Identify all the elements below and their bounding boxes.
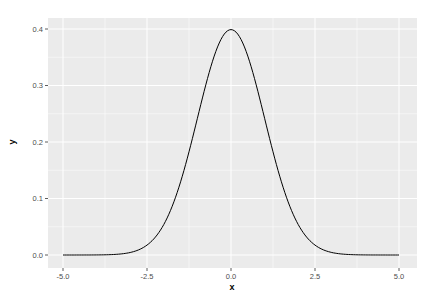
- x-tick-label: -5.0: [57, 272, 70, 281]
- density-chart: 0.00.10.20.30.4 -5.0-2.50.02.55.0 x y: [0, 0, 438, 304]
- y-axis-title: y: [7, 139, 17, 144]
- x-tick-label: -2.5: [141, 272, 154, 281]
- y-tick-label: 0.1: [33, 194, 43, 203]
- x-axis: -5.0-2.50.02.55.0: [57, 268, 405, 281]
- y-tick-label: 0.3: [33, 81, 43, 90]
- x-axis-title: x: [229, 282, 234, 292]
- plot-panel: [48, 18, 417, 268]
- y-tick-label: 0.4: [33, 25, 43, 34]
- y-tick-label: 0.0: [33, 251, 43, 260]
- x-tick-label: 5.0: [394, 272, 404, 281]
- y-axis: 0.00.10.20.30.4: [33, 25, 48, 260]
- x-tick-label: 2.5: [310, 272, 320, 281]
- x-tick-label: 0.0: [226, 272, 236, 281]
- y-tick-label: 0.2: [33, 138, 43, 147]
